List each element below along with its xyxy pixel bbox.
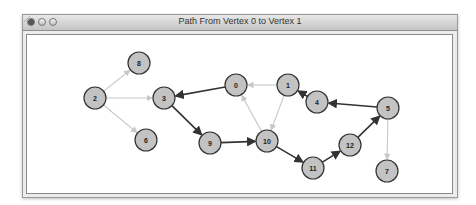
vertex-label: 10 <box>263 138 271 145</box>
vertex-5[interactable]: 5 <box>377 97 399 119</box>
vertex-6[interactable]: 6 <box>135 129 157 151</box>
edge-12-to-5 <box>358 116 380 137</box>
vertex-7[interactable]: 7 <box>376 160 398 182</box>
vertex-9[interactable]: 9 <box>199 132 221 154</box>
vertex-label: 3 <box>162 95 166 102</box>
vertex-label: 4 <box>315 99 319 106</box>
vertex-label: 2 <box>93 95 97 102</box>
vertex-label: 12 <box>346 142 354 149</box>
edge-5-to-4 <box>329 103 377 107</box>
vertex-label: 5 <box>386 105 390 112</box>
edge-3-to-9 <box>172 106 202 135</box>
vertex-4[interactable]: 4 <box>306 91 328 113</box>
edge-2-to-6 <box>103 105 136 132</box>
vertex-10[interactable]: 10 <box>256 130 278 152</box>
edge-1-to-10 <box>271 95 284 129</box>
vertex-label: 9 <box>208 140 212 147</box>
vertex-2[interactable]: 2 <box>84 87 106 109</box>
nodes-layer: 0123456789101112 <box>84 52 399 182</box>
edge-11-to-12 <box>322 151 339 162</box>
graph-svg: 0123456789101112 <box>0 0 476 205</box>
edge-10-to-11 <box>276 147 302 162</box>
vertex-3[interactable]: 3 <box>153 87 175 109</box>
vertex-12[interactable]: 12 <box>339 134 361 156</box>
vertex-label: 11 <box>309 165 317 172</box>
vertex-11[interactable]: 11 <box>302 157 324 179</box>
edge-0-to-3 <box>176 87 225 96</box>
vertex-0[interactable]: 0 <box>225 74 247 96</box>
vertex-label: 8 <box>137 60 141 67</box>
vertex-label: 0 <box>234 82 238 89</box>
vertex-label: 7 <box>385 168 389 175</box>
edge-5-to-7 <box>387 119 388 159</box>
vertex-label: 6 <box>144 137 148 144</box>
edge-9-to-10 <box>221 141 255 142</box>
vertex-1[interactable]: 1 <box>277 74 299 96</box>
edge-2-to-8 <box>104 70 130 91</box>
vertex-8[interactable]: 8 <box>128 52 150 74</box>
edge-4-to-1 <box>298 91 307 96</box>
vertex-label: 1 <box>286 82 290 89</box>
edge-10-to-0 <box>242 95 262 131</box>
